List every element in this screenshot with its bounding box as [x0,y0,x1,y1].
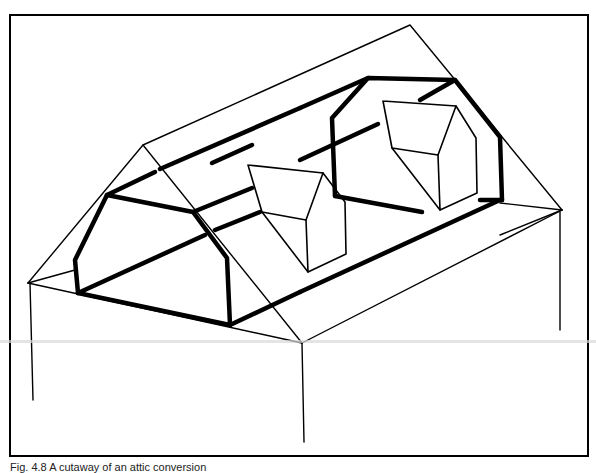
house-walls [30,212,560,442]
dormer-left [248,165,346,272]
dormer-right [383,101,477,210]
figure-frame [10,15,588,456]
figure-caption: Fig. 4.8 A cutaway of an attic conversio… [10,461,206,473]
scan-artifact-line [0,340,596,343]
